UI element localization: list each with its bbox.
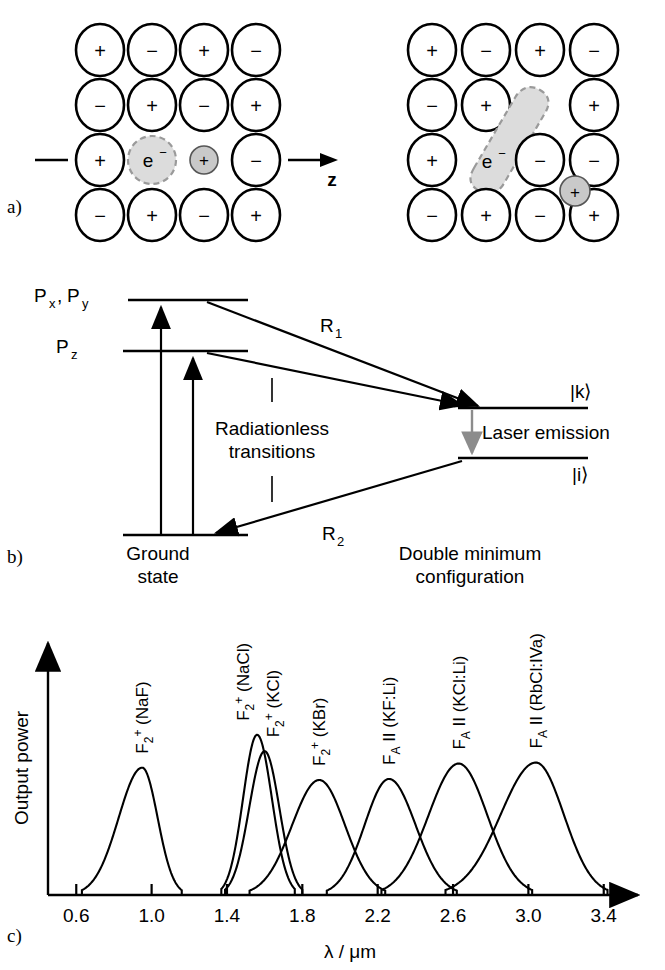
lattice-ion: − (516, 189, 564, 241)
svg-text:+: + (146, 205, 158, 227)
ground-state-label-2: state (137, 566, 178, 587)
curve-label-text: FA II (KCl:Li) (450, 656, 473, 750)
svg-text:−: − (588, 150, 600, 172)
lattice-ion: + (76, 134, 124, 186)
svg-text:+: + (570, 183, 580, 202)
svg-text:+: + (588, 95, 600, 117)
lattice-ion: + (76, 24, 124, 76)
lattice-ion: − (408, 189, 456, 241)
lattice-ion: − (232, 24, 280, 76)
radiationless-label-2: transitions (229, 441, 316, 462)
svg-text:y: y (82, 296, 89, 311)
left-lattice: + − + − − + − + + e − + (35, 24, 338, 241)
lattice-ion: + (516, 24, 564, 76)
curve-label: F2+ (NaF) (131, 681, 156, 753)
z-axis-arrow: z (288, 153, 338, 190)
svg-text:−: − (94, 95, 106, 117)
lattice-ion: + (408, 134, 456, 186)
relaxation-arrow-r1 (207, 302, 478, 406)
svg-text:−: − (588, 40, 600, 62)
svg-text:−: − (534, 205, 546, 227)
svg-text:−: − (94, 205, 106, 227)
x-tick-label: 0.6 (63, 905, 89, 926)
svg-text:−: − (426, 95, 438, 117)
curve-label: FA II (RbCl:IVa) (527, 633, 550, 748)
lattice-ion: − (180, 79, 228, 131)
curve-label: F2+ (KBr) (308, 698, 333, 766)
r1-label-sub: 1 (335, 326, 342, 341)
x-tick-label: 2.2 (364, 905, 390, 926)
curve-label: FA II (KF:Li) (380, 677, 403, 765)
svg-text:−: − (250, 40, 262, 62)
r1-label: R (320, 315, 334, 336)
right-lattice: + − + − − + + e − + − − − + (408, 24, 618, 241)
spectrum-curve (221, 735, 294, 895)
svg-text:+: + (198, 40, 210, 62)
svg-text:e: e (482, 151, 493, 172)
figure-root: + − + − − + − + + e − + (0, 0, 665, 970)
spectrum-curve (225, 751, 302, 895)
panel-a-tag: a) (7, 196, 22, 218)
svg-text:+: + (250, 95, 262, 117)
svg-text:P: P (67, 285, 80, 306)
svg-text:−: − (250, 150, 262, 172)
curve-label-text: F2+ (NaCl) (232, 643, 257, 721)
svg-text:x: x (49, 296, 56, 311)
r2-label: R (322, 523, 336, 544)
svg-text:+: + (480, 95, 492, 117)
level-i-label: |i⟩ (572, 464, 588, 485)
level-pz-label: P (56, 336, 69, 357)
lattice-ion: + (128, 79, 176, 131)
x-tick-label: 3.4 (591, 905, 618, 926)
svg-text:+: + (426, 40, 438, 62)
lattice-ion: + (128, 189, 176, 241)
svg-text:+: + (146, 95, 158, 117)
svg-text:+: + (250, 205, 262, 227)
lattice-ion: + (180, 24, 228, 76)
panel-c-tag: c) (7, 925, 22, 947)
panel-a-svg: + − + − − + − + + e − + (0, 0, 665, 250)
svg-text:+: + (480, 205, 492, 227)
r1-label-group: R 1 (320, 315, 342, 341)
relaxation-arrow-r2 (216, 461, 462, 533)
curve-label: F2+ (KCl) (262, 670, 287, 738)
svg-text:+: + (199, 151, 209, 170)
spectrum-curve (381, 764, 532, 895)
curve-label-text: FA II (KF:Li) (380, 677, 403, 765)
lattice-ion: + (232, 79, 280, 131)
lattice-ion: − (462, 24, 510, 76)
lattice-ion: − (76, 79, 124, 131)
lattice-ion: − (128, 24, 176, 76)
svg-text:−: − (198, 95, 210, 117)
x-tick-label: 1.0 (138, 905, 164, 926)
curve-label-text: F2+ (NaF) (131, 681, 156, 753)
panel-a-lattice: + − + − − + − + + e − + (0, 0, 665, 250)
x-tick-label: 3.0 (515, 905, 541, 926)
svg-text:,: , (57, 285, 62, 306)
svg-text:−: − (498, 146, 506, 161)
x-tick-label: 2.6 (440, 905, 466, 926)
r2-label-sub: 2 (337, 534, 344, 549)
level-k-label: |k⟩ (570, 381, 591, 402)
double-minimum-caption-2: configuration (416, 566, 525, 587)
lattice-ion: − (516, 134, 564, 186)
x-axis-label: λ / μm (324, 941, 376, 962)
spectrum-curve (250, 780, 386, 895)
svg-text:+: + (534, 40, 546, 62)
laser-emission-label: Laser emission (482, 422, 610, 443)
curve-label-text: F2+ (KCl) (262, 670, 287, 738)
x-axis-ticks: 0.61.01.41.82.22.63.03.4 (63, 884, 617, 926)
svg-text:−: − (159, 145, 167, 160)
curve-label-text: FA II (RbCl:IVa) (527, 633, 550, 748)
lattice-ion: − (408, 79, 456, 131)
spectrum-curve (82, 768, 182, 895)
vacancy-plus-right: + (560, 176, 590, 206)
x-tick-label: 1.4 (214, 905, 241, 926)
spectrum-curve (327, 779, 457, 895)
spectra-curve-labels: F2+ (NaF)F2+ (NaCl)F2+ (KCl)F2+ (KBr)FA … (131, 633, 550, 766)
svg-text:−: − (146, 40, 158, 62)
svg-text:−: − (534, 150, 546, 172)
curve-label-text: F2+ (KBr) (308, 698, 333, 766)
svg-text:+: + (94, 40, 106, 62)
svg-text:e: e (143, 150, 154, 171)
